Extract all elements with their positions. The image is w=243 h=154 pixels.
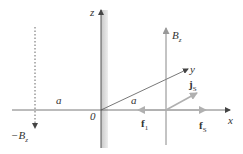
neg-bz-label: −Bz	[11, 129, 28, 144]
y-axis	[101, 69, 188, 110]
diagram-svg: z Bz y jS a a 0 f1 fS x −Bz	[0, 0, 243, 154]
js-vector-arrow	[166, 93, 197, 110]
wall-shade	[101, 10, 108, 148]
x-axis-label: x	[227, 114, 233, 126]
fs-label: fS	[199, 119, 207, 134]
origin-label: 0	[90, 110, 96, 122]
distance-a-diagonal: a	[131, 94, 137, 106]
distance-a-left: a	[56, 94, 62, 106]
y-axis-label: y	[189, 63, 195, 75]
z-axis-label: z	[89, 6, 95, 18]
f1-label: f1	[141, 117, 149, 132]
diagram-canvas: z Bz y jS a a 0 f1 fS x −Bz	[0, 0, 243, 154]
js-label: jS	[188, 78, 197, 93]
bz-label: Bz	[172, 29, 182, 44]
